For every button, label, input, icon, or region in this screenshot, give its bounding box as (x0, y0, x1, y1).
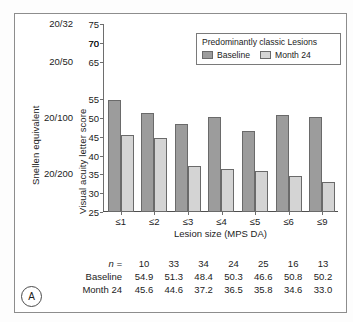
bar-baseline (309, 117, 322, 212)
table-cell: 25 (248, 258, 278, 271)
x-tick-mark (322, 212, 323, 215)
x-tick-mark (289, 212, 290, 215)
figure-panel: Snellen equivalent 20/3220/5020/10020/20… (0, 0, 353, 322)
x-tick-label: ≤2 (149, 216, 160, 227)
table-cell: 33 (159, 258, 189, 271)
bar-month24 (322, 182, 335, 212)
bar-baseline (242, 131, 255, 212)
y-tick-label: 70 (88, 37, 99, 48)
y-tick-mark (100, 193, 103, 194)
y-tick-mark (100, 212, 103, 213)
snellen-equivalent-label: 20/32 (18, 18, 73, 29)
y-tick-mark (100, 43, 103, 44)
x-tick-label: ≤5 (250, 216, 261, 227)
table-cell: 50.2 (308, 271, 338, 284)
table-cell: 51.3 (159, 271, 189, 284)
y-tick-mark (100, 118, 103, 119)
x-tick-mark (188, 212, 189, 215)
table-cell: 10 (129, 258, 159, 271)
table-cell: 54.9 (129, 271, 159, 284)
table-cell: 13 (308, 258, 338, 271)
y-tick-label: 35 (88, 169, 99, 180)
legend-swatch (260, 51, 271, 59)
x-axis-title: Lesion size (MPS DA) (103, 228, 338, 239)
table-row: n =10333424251613 (60, 258, 338, 271)
y-tick-mark (100, 174, 103, 175)
table-cell: 46.6 (248, 271, 278, 284)
table-cell: 50.8 (278, 271, 308, 284)
x-tick-mark (121, 212, 122, 215)
x-tick-label: ≤6 (283, 216, 294, 227)
bar-month24 (121, 135, 134, 212)
bar-month24 (154, 138, 167, 212)
table-row-header: Month 24 (60, 284, 129, 297)
x-tick-label: ≤3 (183, 216, 194, 227)
table-cell: 33.0 (308, 284, 338, 297)
bar-baseline (108, 100, 121, 212)
table-cell: 24 (219, 258, 249, 271)
legend-entries: BaselineMonth 24 (202, 50, 335, 60)
table-cell: 36.5 (219, 284, 249, 297)
bar-group (104, 24, 138, 212)
legend-title: Predominantly classic Lesions (202, 37, 335, 47)
table-cell: 50.3 (219, 271, 249, 284)
bar-month24 (221, 169, 234, 212)
y-tick-label: 40 (88, 150, 99, 161)
y-axis-title: Visual acuity letter score (77, 109, 88, 214)
y-tick-mark (100, 62, 103, 63)
y-tick-label: 65 (88, 56, 99, 67)
legend-entry: Month 24 (260, 50, 311, 60)
snellen-equivalent-label: 20/50 (18, 56, 73, 67)
table-cell: 34 (189, 258, 219, 271)
bar-baseline (141, 113, 154, 212)
table-cell: 44.6 (159, 284, 189, 297)
table-row-header: Baseline (60, 271, 129, 284)
x-tick-mark (222, 212, 223, 215)
x-tick-label: ≤1 (116, 216, 127, 227)
table-cell: 45.6 (129, 284, 159, 297)
y-tick-mark (100, 156, 103, 157)
x-tick-mark (154, 212, 155, 215)
data-table-grid: n =10333424251613Baseline54.951.348.450.… (60, 258, 338, 297)
table-row-header: n = (60, 258, 129, 271)
x-tick-label: ≤4 (216, 216, 227, 227)
bar-baseline (208, 117, 221, 212)
x-tick-mark (255, 212, 256, 215)
y-tick-mark (100, 24, 103, 25)
bar-month24 (289, 176, 302, 212)
bar-baseline (276, 115, 289, 212)
table-row: Month 2445.644.637.236.535.834.633.0 (60, 284, 338, 297)
table-cell: 35.8 (248, 284, 278, 297)
y-tick-label: 75 (88, 19, 99, 30)
table-cell: 34.6 (278, 284, 308, 297)
y-tick-label: 25 (88, 207, 99, 218)
legend-label: Baseline (217, 50, 250, 60)
legend-swatch (202, 51, 213, 59)
y-tick-label: 55 (88, 94, 99, 105)
snellen-equivalent-label: 20/100 (18, 112, 73, 123)
table-cell: 37.2 (189, 284, 219, 297)
legend: Predominantly classic Lesions BaselineMo… (196, 33, 341, 65)
data-table: n =10333424251613Baseline54.951.348.450.… (60, 258, 338, 297)
bar-month24 (188, 166, 201, 212)
table-row: Baseline54.951.348.450.346.650.850.2 (60, 271, 338, 284)
y-tick-label: 50 (88, 113, 99, 124)
bar-group (138, 24, 172, 212)
panel-letter: A (21, 286, 42, 307)
legend-label: Month 24 (275, 50, 311, 60)
y-tick-label: 30 (88, 188, 99, 199)
x-tick-label: ≤9 (317, 216, 328, 227)
bar-month24 (255, 171, 268, 212)
y-tick-label: 45 (88, 131, 99, 142)
table-cell: 16 (278, 258, 308, 271)
y-tick-mark (100, 99, 103, 100)
legend-entry: Baseline (202, 50, 250, 60)
bar-baseline (175, 124, 188, 212)
table-cell: 48.4 (189, 271, 219, 284)
snellen-equivalent-label: 20/200 (18, 168, 73, 179)
y-tick-mark (100, 137, 103, 138)
